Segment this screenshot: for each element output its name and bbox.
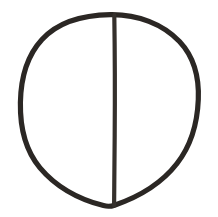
vertical-divider-line — [114, 15, 115, 205]
background-rect — [0, 0, 218, 217]
bisected-circle-figure: Bisected circle Hand-drawn black circle … — [0, 0, 218, 217]
figure-canvas: Bisected circle Hand-drawn black circle … — [0, 0, 218, 217]
